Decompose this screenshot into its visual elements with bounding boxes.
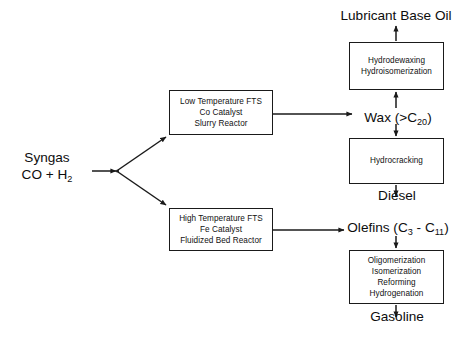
gasoline-upgrading-line-3: Reforming	[377, 277, 415, 288]
process-box-high-temperature-fts[interactable]: High Temperature FTS Fe Catalyst Fluidiz…	[169, 208, 273, 251]
connector-splitter-to-lt-fts	[118, 137, 166, 170]
stream-label-olefins: Olefins (C3 - C11)	[336, 220, 460, 236]
syngas-formula-text: CO + H	[22, 167, 68, 182]
lt-fts-line-3: Slurry Reactor	[194, 118, 247, 129]
process-box-gasoline-upgrading[interactable]: Oligomerization Isomerization Reforming …	[349, 250, 444, 304]
process-box-hydrodewaxing[interactable]: Hydrodewaxing Hydroisomerization	[349, 42, 444, 90]
syngas-formula-subscript: 2	[67, 174, 72, 184]
product-label-diesel: Diesel	[358, 188, 436, 204]
syngas-line-2: CO + H2	[4, 166, 90, 183]
olefins-text-post: )	[444, 220, 449, 235]
ht-fts-line-1: High Temperature FTS	[179, 213, 263, 224]
product-label-gasoline: Gasoline	[352, 309, 442, 325]
process-box-hydrocracking[interactable]: Hydrocracking	[349, 138, 444, 184]
lt-fts-line-1: Low Temperature FTS	[180, 96, 262, 107]
gasoline-upgrading-line-2: Isomerization	[372, 266, 421, 277]
gasoline-upgrading-line-4: Hydrogenation	[370, 288, 424, 299]
olefins-carbon-subscript-high: 11	[435, 227, 444, 237]
hydrodewaxing-line-2: Hydroisomerization	[361, 66, 432, 77]
stream-label-wax: Wax (>C20)	[346, 110, 450, 126]
wax-text-pre: Wax (>C	[364, 110, 417, 125]
syngas-line-1: Syngas	[4, 149, 90, 166]
wax-carbon-subscript: 20	[417, 117, 427, 127]
stream-label-syngas: Syngas CO + H2	[4, 149, 90, 183]
hydrocracking-line-1: Hydrocracking	[370, 155, 423, 166]
hydrodewaxing-line-1: Hydrodewaxing	[368, 55, 425, 66]
olefins-text-mid: - C	[413, 220, 435, 235]
ht-fts-line-2: Fe Catalyst	[200, 224, 242, 235]
lt-fts-line-2: Co Catalyst	[200, 107, 243, 118]
product-label-lubricant-base-oil: Lubricant Base Oil	[330, 8, 462, 24]
ht-fts-line-3: Fluidized Bed Reactor	[180, 235, 262, 246]
olefins-text-pre: Olefins (C	[347, 220, 407, 235]
connector-splitter-to-ht-fts	[118, 172, 166, 205]
gasoline-upgrading-line-1: Oligomerization	[368, 255, 426, 266]
process-box-low-temperature-fts[interactable]: Low Temperature FTS Co Catalyst Slurry R…	[169, 90, 273, 135]
process-flow-diagram: Syngas CO + H2 Low Temperature FTS Co Ca…	[0, 0, 462, 343]
olefins-carbon-subscript-low: 3	[408, 227, 413, 237]
wax-text-post: )	[427, 110, 432, 125]
